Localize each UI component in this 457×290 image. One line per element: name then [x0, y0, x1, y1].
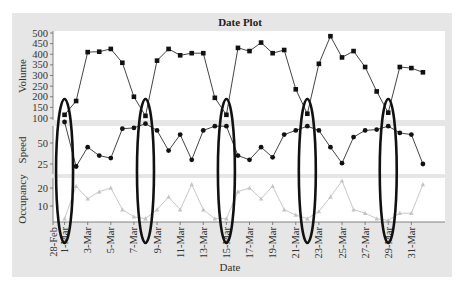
volume-point [363, 65, 368, 70]
volume-point [247, 49, 252, 54]
volume-point [109, 47, 114, 52]
speed-point [74, 164, 79, 169]
speed-point [97, 153, 102, 158]
speed-point [224, 124, 229, 129]
volume-point [85, 50, 90, 55]
volume-point [62, 113, 67, 118]
speed-point [201, 128, 206, 133]
speed-point [282, 132, 287, 137]
volume-axis-label: Volume [16, 59, 28, 93]
x-tick-label: 27-Mar [360, 227, 371, 259]
x-tick-label: 28-Feb [48, 227, 59, 257]
volume-point [305, 111, 310, 116]
x-tick-label: 23-Mar [313, 227, 324, 259]
volume-point [155, 58, 160, 63]
volume-point [74, 99, 79, 104]
volume-point [213, 96, 218, 101]
volume-point [351, 49, 356, 54]
y-tick-label: 250 [32, 81, 48, 92]
x-tick-label: 19-Mar [267, 227, 278, 259]
y-tick-label: 500 [32, 28, 48, 39]
speed-point [351, 135, 356, 140]
x-tick-label: 31-Mar [406, 227, 417, 259]
speed-point [189, 157, 194, 162]
speed-point [155, 128, 160, 133]
x-axis-label: Date [220, 261, 241, 273]
x-tick-label: 21-Mar [290, 227, 301, 259]
speed-point [397, 131, 402, 136]
speed-point [409, 132, 414, 137]
x-tick-label: 7-Mar [128, 227, 139, 254]
volume-point [201, 51, 206, 56]
chart-title: Date Plot [218, 16, 262, 28]
speed-panel [53, 126, 445, 174]
volume-point [189, 51, 194, 56]
speed-point [293, 128, 298, 133]
y-tick-label: 300 [32, 70, 48, 81]
volume-point [328, 34, 333, 39]
speed-point [236, 153, 241, 158]
speed-point [166, 148, 171, 153]
y-tick-label: 100 [32, 113, 48, 124]
y-tick-label: 150 [32, 102, 48, 113]
y-tick-label: 25 [38, 159, 49, 170]
speed-point [132, 125, 137, 130]
volume-point [409, 66, 414, 71]
speed-point [374, 127, 379, 132]
volume-point [398, 65, 403, 70]
speed-point [85, 145, 90, 150]
x-tick-label: 9-Mar [152, 227, 163, 254]
volume-point [236, 46, 241, 51]
date-plot-chart: Date Plot Volume Speed Occupancy Date 10… [0, 0, 457, 290]
volume-point [293, 87, 298, 92]
x-tick-label: 11-Mar [175, 227, 186, 259]
occupancy-panel [53, 178, 445, 222]
x-tick-label: 13-Mar [198, 227, 209, 259]
volume-point [270, 51, 275, 56]
volume-point [97, 49, 102, 54]
speed-point [143, 121, 148, 126]
volume-point [421, 70, 426, 75]
volume-point [317, 62, 322, 67]
x-tick-label: 17-Mar [244, 227, 255, 259]
speed-point [270, 155, 275, 160]
y-tick-label: 350 [32, 59, 48, 70]
y-tick-label: 50 [38, 138, 49, 149]
volume-point [340, 55, 345, 60]
speed-point [328, 145, 333, 150]
volume-point [259, 40, 264, 45]
speed-point [340, 161, 345, 166]
y-tick-label: 450 [32, 38, 48, 49]
volume-point [224, 113, 229, 118]
x-tick-label: 25-Mar [337, 227, 348, 259]
speed-point [212, 124, 217, 129]
x-tick-label: 3-Mar [82, 227, 93, 254]
y-tick-label: 10 [38, 201, 49, 212]
speed-point [178, 132, 183, 137]
volume-point [143, 114, 148, 119]
volume-point [120, 60, 125, 65]
volume-point [132, 94, 137, 99]
volume-panel [53, 31, 445, 120]
speed-point [120, 126, 125, 131]
x-tick-label: 5-Mar [105, 227, 116, 254]
speed-point [259, 145, 264, 150]
speed-point [386, 124, 391, 129]
volume-point [166, 47, 171, 52]
speed-axis-label: Speed [16, 136, 28, 163]
y-tick-label: 200 [32, 91, 48, 102]
y-tick-label: 20 [38, 183, 49, 194]
speed-point [316, 128, 321, 133]
y-tick-label: 400 [32, 49, 48, 60]
speed-point [108, 156, 113, 161]
speed-point [363, 128, 368, 133]
speed-point [421, 162, 426, 167]
volume-point [178, 53, 183, 58]
occupancy-axis-label: Occupancy [16, 174, 28, 224]
speed-point [247, 157, 252, 162]
volume-point [386, 110, 391, 115]
volume-point [374, 89, 379, 94]
speed-point [305, 124, 310, 129]
volume-point [282, 48, 287, 53]
speed-point [62, 120, 67, 125]
